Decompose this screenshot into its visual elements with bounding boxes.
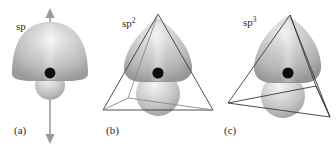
orbital-label-b-base: sp — [122, 17, 132, 29]
panel-caption-a: (a) — [14, 124, 27, 137]
hybrid-orbital-figure: sp (a) sp2 (b) — [0, 0, 336, 152]
orbital-label-a: sp — [16, 20, 26, 32]
panel-caption-c: (c) — [224, 124, 237, 137]
nucleus-dot-c — [282, 67, 293, 78]
orbital-label-c-base: sp — [243, 16, 253, 28]
nucleus-dot-b — [152, 67, 163, 78]
orbital-label-c-sup: 3 — [253, 15, 257, 24]
panel-caption-b: (b) — [106, 124, 119, 137]
nucleus-dot-a — [45, 68, 56, 79]
orbital-label-a-base: sp — [16, 20, 26, 32]
orbital-label-b-sup: 2 — [132, 16, 136, 25]
